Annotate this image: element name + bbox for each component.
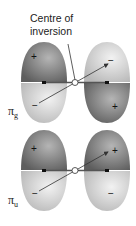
pig-lower-left-lobe xyxy=(21,83,67,123)
svg-text:+: + xyxy=(31,51,37,62)
pi-g-label: πg xyxy=(8,104,18,120)
orbital-diagram: +− −+ ++ −− xyxy=(0,0,136,226)
svg-text:−: − xyxy=(108,188,114,199)
pig-upper-left-lobe xyxy=(21,42,67,82)
pi-u-label: πu xyxy=(8,193,18,209)
svg-text:+: + xyxy=(31,143,37,154)
svg-text:−: − xyxy=(32,188,38,199)
svg-text:−: − xyxy=(32,100,38,111)
pig-lower-right-lobe xyxy=(84,83,130,123)
svg-text:−: − xyxy=(108,55,114,66)
svg-text:+: + xyxy=(112,145,118,156)
piu-upper-left-lobe xyxy=(21,130,67,170)
piu-lower-left-lobe xyxy=(21,171,67,211)
g-subscript: g xyxy=(14,111,18,120)
pig-upper-right-lobe xyxy=(84,42,130,82)
u-subscript: u xyxy=(14,200,18,209)
piu-upper-right-lobe xyxy=(84,130,130,170)
svg-text:+: + xyxy=(112,101,118,112)
piu-lower-right-lobe xyxy=(84,171,130,211)
